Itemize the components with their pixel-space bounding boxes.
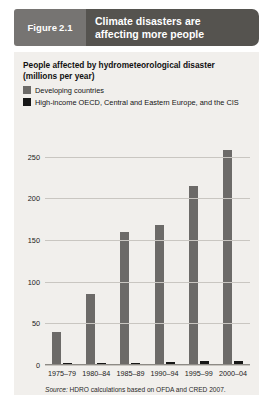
bar-developing xyxy=(86,294,95,365)
figure-header: Figure 2.1 Climate disasters are affecti… xyxy=(14,9,259,46)
x-axis-tick-label: 1985–89 xyxy=(113,369,147,378)
chart-subtitle-line2: (millions per year) xyxy=(23,71,253,82)
bar-group xyxy=(148,136,182,365)
figure-title-line2: affecting more people xyxy=(95,28,259,41)
plot-area: 050100150200250 xyxy=(45,136,250,365)
x-axis-tick-label: 2000–04 xyxy=(216,369,250,378)
bar-group xyxy=(79,136,113,365)
legend-swatch-oecd xyxy=(23,98,31,106)
x-axis-tick-label: 1990–94 xyxy=(148,369,182,378)
y-axis-tick-label: 150 xyxy=(28,236,40,245)
gridline xyxy=(45,240,250,241)
y-axis-tick-label: 250 xyxy=(28,152,40,161)
bar-developing xyxy=(155,225,164,365)
bar-developing xyxy=(52,332,61,365)
x-axis-tick-label: 1975–79 xyxy=(45,369,79,378)
source-text: HDRO calculations based on OFDA and CRED… xyxy=(70,386,226,393)
bar-group xyxy=(182,136,216,365)
bar-group-container xyxy=(45,136,250,365)
y-axis-tick-label: 50 xyxy=(32,319,40,328)
figure-title: Climate disasters are affecting more peo… xyxy=(86,9,259,46)
gridline xyxy=(45,157,250,158)
bar-group xyxy=(45,136,79,365)
legend-swatch-developing xyxy=(23,86,31,94)
y-axis-tick-label: 100 xyxy=(28,277,40,286)
figure-title-line1: Climate disasters are xyxy=(95,15,259,28)
bar-group xyxy=(216,136,250,365)
bar-developing xyxy=(223,150,232,365)
gridline xyxy=(45,198,250,199)
legend-label-developing: Developing countries xyxy=(35,86,104,95)
legend-label-oecd: High-income OECD, Central and Eastern Eu… xyxy=(35,98,239,107)
figure-number-tab: Figure 2.1 xyxy=(14,9,86,46)
bar-developing xyxy=(120,232,129,365)
y-axis-tick-label: 200 xyxy=(28,194,40,203)
chart-subtitle-line1: People affected by hydrometeorological d… xyxy=(23,60,253,71)
legend-item-oecd: High-income OECD, Central and Eastern Eu… xyxy=(23,97,255,107)
bar-developing xyxy=(189,186,198,365)
x-axis-tick-label: 1995–99 xyxy=(182,369,216,378)
chart-panel: People affected by hydrometeorological d… xyxy=(14,52,259,395)
figure-container: Figure 2.1 Climate disasters are affecti… xyxy=(0,0,269,419)
legend-item-developing: Developing countries xyxy=(23,85,255,95)
source-note: Source: HDRO calculations based on OFDA … xyxy=(45,386,226,393)
figure-label: Figure xyxy=(27,22,57,33)
bar-group xyxy=(113,136,147,365)
x-axis-tick-label: 1980–84 xyxy=(79,369,113,378)
gridline xyxy=(45,323,250,324)
chart-subtitle: People affected by hydrometeorological d… xyxy=(23,60,253,81)
source-label: Source: xyxy=(45,386,68,393)
x-axis-labels: 1975–791980–841985–891990–941995–992000–… xyxy=(45,369,250,378)
chart-legend: Developing countries High-income OECD, C… xyxy=(23,85,255,109)
gridline xyxy=(45,365,250,366)
y-axis-tick-label: 0 xyxy=(36,361,40,370)
gridline xyxy=(45,282,250,283)
figure-number: 2.1 xyxy=(59,22,73,33)
